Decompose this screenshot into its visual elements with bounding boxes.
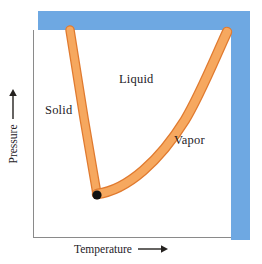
region-label-liquid: Liquid <box>119 72 154 87</box>
y-axis-title: Pressure <box>7 91 19 161</box>
up-arrow-icon <box>8 89 18 119</box>
region-label-vapor: Vapor <box>174 133 205 148</box>
y-axis-label-text: Pressure <box>7 125 19 164</box>
blue-top-band <box>38 11 250 30</box>
region-label-solid: Solid <box>45 103 72 118</box>
phase-diagram-figure: Solid Liquid Vapor Temperature Pressure <box>0 0 262 264</box>
right-arrow-icon <box>138 244 168 254</box>
x-axis-title: Temperature <box>74 243 168 255</box>
blue-right-band <box>231 11 250 240</box>
x-axis-label-text: Temperature <box>74 243 132 255</box>
